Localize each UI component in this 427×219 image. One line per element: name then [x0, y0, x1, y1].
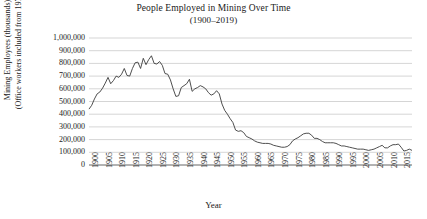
data-series-line [89, 56, 412, 151]
x-axis-title: Year [0, 200, 427, 210]
plot-area [0, 0, 427, 219]
mining-employment-line-chart: People Employed in Mining Over Time (190… [0, 0, 427, 219]
